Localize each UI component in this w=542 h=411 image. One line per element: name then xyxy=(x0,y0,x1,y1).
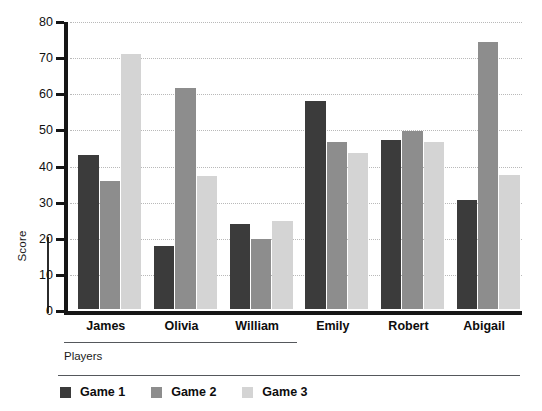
bar-group xyxy=(154,22,217,309)
legend-swatch-icon xyxy=(151,387,162,398)
bar xyxy=(154,246,175,309)
y-tick-mark xyxy=(56,21,64,24)
y-tick-mark xyxy=(56,202,64,205)
y-tick-label: 0 xyxy=(46,305,53,318)
bar-group xyxy=(381,22,444,309)
bar-group xyxy=(457,22,520,309)
y-tick-mark xyxy=(56,310,64,313)
legend-label: Game 2 xyxy=(171,385,216,399)
y-tick-label: 40 xyxy=(39,160,53,173)
bar xyxy=(230,224,251,309)
y-axis-title: Score xyxy=(16,206,28,286)
bars-layer xyxy=(68,22,522,309)
x-category-label: Olivia xyxy=(164,319,198,333)
bar xyxy=(175,88,196,309)
bar xyxy=(272,221,293,310)
y-tick-mark xyxy=(56,93,64,96)
bar xyxy=(327,142,348,309)
bar xyxy=(78,155,99,309)
bar-group xyxy=(78,22,141,309)
x-axis-title-rule-top xyxy=(64,342,297,343)
legend-item[interactable]: Game 3 xyxy=(242,385,307,399)
x-category-label: James xyxy=(86,319,125,333)
legend-swatch-icon xyxy=(60,387,71,398)
x-axis-title: Players xyxy=(64,350,102,362)
y-tick-mark xyxy=(56,274,64,277)
legend-swatch-icon xyxy=(242,387,253,398)
y-tick-mark xyxy=(56,238,64,241)
y-tick-label: 50 xyxy=(39,124,53,137)
bar xyxy=(305,101,326,309)
bar xyxy=(402,131,423,309)
y-tick-mark xyxy=(56,57,64,60)
bar xyxy=(348,153,369,309)
y-tick-label: 20 xyxy=(39,233,53,246)
x-axis-line xyxy=(64,311,522,315)
x-category-label: Emily xyxy=(316,319,349,333)
x-category-label: Robert xyxy=(388,319,428,333)
y-tick-mark xyxy=(56,166,64,169)
legend: Game 1Game 2Game 3 xyxy=(60,385,334,399)
bar xyxy=(251,239,272,309)
bar-group xyxy=(305,22,368,309)
plot-area: 01020304050607080 JamesOliviaWilliamEmil… xyxy=(64,22,522,313)
bar xyxy=(121,54,142,309)
bar-chart: Score 01020304050607080 JamesOliviaWilli… xyxy=(0,0,542,411)
x-category-label: Abigail xyxy=(463,319,505,333)
y-tick-mark xyxy=(56,129,64,132)
bar xyxy=(499,175,520,309)
bar xyxy=(478,42,499,309)
legend-item[interactable]: Game 1 xyxy=(60,385,125,399)
bar xyxy=(100,181,121,309)
bar-group xyxy=(230,22,293,309)
legend-rule xyxy=(58,375,520,376)
legend-label: Game 3 xyxy=(262,385,307,399)
legend-item[interactable]: Game 2 xyxy=(151,385,216,399)
y-tick-label: 10 xyxy=(39,269,53,282)
y-tick-label: 60 xyxy=(39,88,53,101)
bar xyxy=(197,176,218,309)
bar xyxy=(424,142,445,309)
y-tick-label: 30 xyxy=(39,196,53,209)
y-tick-label: 70 xyxy=(39,52,53,65)
x-category-label: William xyxy=(235,319,279,333)
legend-label: Game 1 xyxy=(80,385,125,399)
y-tick-label: 80 xyxy=(39,16,53,29)
bar xyxy=(457,200,478,309)
bar xyxy=(381,140,402,309)
